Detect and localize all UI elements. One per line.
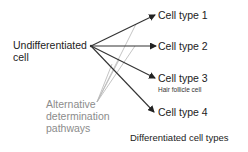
pathway-lines — [97, 24, 136, 102]
source-cell-label: Undifferentiated cell — [13, 39, 87, 63]
cell-type-1-label: Cell type 1 — [158, 9, 208, 21]
differentiated-cell-types-label: Differentiated cell types — [130, 132, 229, 143]
source-node-dot — [90, 45, 92, 47]
cell-type-3-label: Cell type 3 — [158, 72, 208, 84]
pathway-line-3 — [97, 60, 119, 102]
arrow-to-cell-type-1 — [91, 15, 155, 46]
cell-type-2-label: Cell type 2 — [158, 40, 208, 52]
pathways-label-line3: pathways — [46, 122, 110, 134]
cell-type-4-label: Cell type 4 — [158, 106, 208, 118]
cell-type-3-sublabel: Hair follicle cell — [158, 86, 201, 94]
source-cell-label-line2: cell — [13, 51, 87, 63]
diagram-canvas — [0, 0, 248, 152]
alternative-pathways-label: Alternative determination pathways — [46, 98, 110, 134]
pathways-label-line1: Alternative — [46, 98, 110, 110]
pathways-label-line2: determination — [46, 110, 110, 122]
pathway-line-2 — [97, 46, 135, 102]
source-cell-label-line1: Undifferentiated — [13, 39, 87, 51]
